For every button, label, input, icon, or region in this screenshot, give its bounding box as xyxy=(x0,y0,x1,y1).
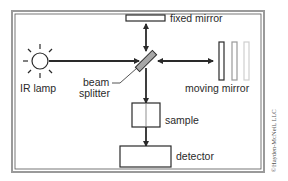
beam-splitter-label-line2: splitter xyxy=(79,87,110,99)
sample-label: sample xyxy=(165,114,199,126)
detector-box xyxy=(120,146,171,167)
moving-mirror xyxy=(219,42,249,80)
sun-icon xyxy=(23,44,52,78)
ir-lamp-label: IR lamp xyxy=(20,82,56,94)
fixed-mirror xyxy=(126,15,165,21)
ftir-diagram: fixed mirror moving mirror IR lamp beam … xyxy=(0,0,288,181)
fixed-mirror-label: fixed mirror xyxy=(170,12,223,24)
moving-mirror-label: moving mirror xyxy=(185,82,250,94)
copyright: ©Hayden-McNeil, LLC xyxy=(270,109,277,172)
detector-label: detector xyxy=(176,150,214,162)
leader-line xyxy=(112,68,137,83)
